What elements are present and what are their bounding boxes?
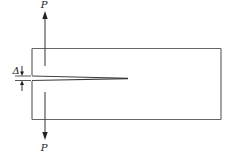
dim-arrow-down-icon: [20, 72, 24, 77]
crack-lower-face: [32, 79, 128, 81]
crack-upper-face: [32, 76, 128, 78]
opening-label: Δ: [11, 65, 19, 76]
dcb-specimen-diagram: P P Δ: [0, 0, 234, 152]
dim-arrow-up-icon: [20, 81, 24, 86]
arrow-head-down-icon: [42, 132, 47, 140]
force-arrow-up: P: [40, 0, 48, 66]
arrow-head-up-icon: [42, 11, 47, 19]
specimen-body: [32, 49, 221, 120]
force-arrow-down: P: [40, 92, 48, 152]
opening-dimension: Δ: [11, 65, 31, 91]
force-label-bottom: P: [40, 142, 48, 152]
force-label-top: P: [40, 0, 48, 10]
crack: [32, 76, 128, 81]
